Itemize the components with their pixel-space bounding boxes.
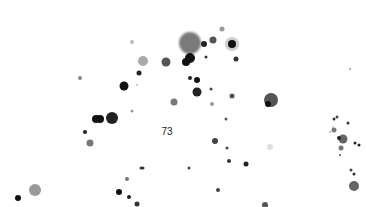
speckle-dot — [188, 76, 192, 80]
speckle-dot — [162, 58, 171, 67]
speckle-dot — [216, 188, 220, 192]
speckle-dot — [120, 82, 129, 91]
speckle-dot — [142, 167, 145, 170]
speckle-dot — [212, 138, 218, 144]
speckle-dot — [29, 184, 41, 196]
speckle-dot — [194, 77, 200, 83]
speckle-dot — [87, 140, 94, 147]
speckle-dot — [227, 159, 231, 163]
speckle-dot — [83, 130, 87, 134]
speckle-dot — [135, 202, 140, 207]
speckle-dot — [329, 131, 331, 133]
speckle-dot — [354, 142, 357, 145]
speckle-dot — [137, 71, 142, 76]
speckle-dot — [116, 189, 122, 195]
speckle-dot — [193, 88, 202, 97]
speckle-dot — [265, 101, 271, 107]
speckle-dot — [210, 102, 214, 106]
speckle-dot — [136, 84, 138, 86]
speckle-dot — [336, 116, 339, 119]
speckle-dot — [337, 136, 341, 140]
speckle-dot — [332, 126, 334, 128]
speckle-dot — [225, 118, 228, 121]
speckle-dot — [353, 173, 356, 176]
speckle-dot — [228, 40, 236, 48]
speckle-dot — [349, 68, 351, 70]
speckle-dot — [106, 112, 118, 124]
speckle-dot — [15, 195, 21, 201]
speckle-dot — [179, 32, 201, 54]
speckle-dot — [96, 115, 104, 123]
speckle-dot — [205, 56, 208, 59]
speckle-dot — [230, 94, 235, 99]
speckle-dot — [127, 195, 131, 199]
speckle-dot — [267, 144, 273, 150]
speckle-dot — [358, 144, 361, 147]
speckle-dot — [78, 76, 82, 80]
speckle-dot — [347, 122, 350, 125]
speckle-dot — [171, 99, 178, 106]
speckle-dot — [244, 162, 249, 167]
speckle-image: 73 — [0, 0, 366, 207]
speckle-dot — [130, 40, 134, 44]
speckle-dot — [339, 154, 341, 156]
speckle-dot — [226, 147, 229, 150]
speckle-dot — [350, 169, 353, 172]
speckle-dot — [332, 128, 337, 133]
speckle-dot — [138, 56, 148, 66]
speckle-dot — [188, 167, 191, 170]
number-label: 73 — [161, 126, 172, 137]
speckle-dot — [220, 27, 225, 32]
speckle-dot — [349, 181, 359, 191]
speckle-dot — [131, 110, 134, 113]
speckle-dot — [339, 146, 344, 151]
speckle-dot — [210, 88, 213, 91]
speckle-dot — [210, 37, 217, 44]
speckle-dot — [262, 202, 268, 207]
speckle-dot — [182, 58, 190, 66]
speckle-dot — [125, 177, 129, 181]
speckle-dot — [201, 41, 207, 47]
speckle-dot — [234, 57, 239, 62]
